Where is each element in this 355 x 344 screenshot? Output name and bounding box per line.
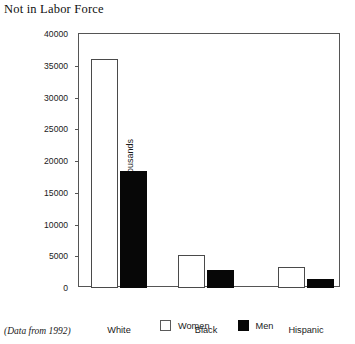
bar-white-men [120,171,147,288]
legend-entry-men: Men [238,320,274,331]
y-tick-label: 0 [8,283,68,293]
y-tick-mark [75,256,79,257]
y-tick-label: 10000 [8,220,68,230]
chart-footnote: (Data from 1992) [4,326,71,336]
y-tick-mark [75,161,79,162]
y-tick-label: 40000 [8,29,68,39]
y-tick-label: 20000 [8,156,68,166]
white-square-swatch [160,320,171,331]
y-tick-label: 15000 [8,188,68,198]
x-tick-label: White [79,325,159,335]
plot-area: Population in thousands 0500010000150002… [78,33,340,287]
legend-entry-women: Women [160,320,210,331]
chart-title: Not in Labor Force [4,2,104,17]
y-tick-mark [75,225,79,226]
bar-black-women [178,255,205,288]
y-tick-mark [75,66,79,67]
y-tick-mark [75,129,79,130]
bar-white-women [91,59,118,288]
legend-label: Men [256,321,274,331]
bar-black-men [207,270,234,288]
chart-page: Not in Labor Force Population in thousan… [0,0,355,344]
y-tick-label: 30000 [8,93,68,103]
chart-legend: WomenMen [160,320,293,331]
y-tick-label: 35000 [8,61,68,71]
y-tick-mark [75,193,79,194]
bar-hispanic-women [278,267,305,288]
y-tick-label: 25000 [8,124,68,134]
y-tick-label: 5000 [8,251,68,261]
y-tick-mark [75,98,79,99]
legend-label: Women [178,321,210,331]
bar-hispanic-men [307,279,334,288]
black-square-swatch [238,320,249,331]
